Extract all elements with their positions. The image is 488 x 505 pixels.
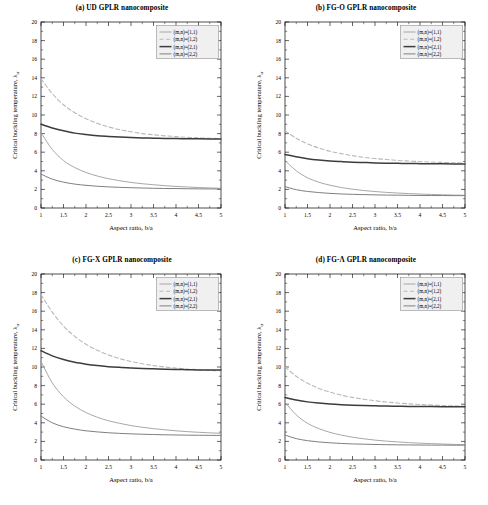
y-tick-label: 16 <box>31 56 37 62</box>
legend-label: (m,n)=(1,2) <box>418 288 442 295</box>
x-tick-label: 5 <box>464 212 467 218</box>
x-tick-label: 3 <box>130 212 133 218</box>
x-tick-label: 1 <box>40 212 43 218</box>
y-tick-label: 12 <box>275 93 281 99</box>
panel-c: (c) FG-X GPLR nanocomposite 11.522.533.5… <box>0 252 244 505</box>
x-tick-label: 4.5 <box>195 464 202 470</box>
x-tick-label: 1 <box>40 464 43 470</box>
y-tick-label: 6 <box>278 401 281 407</box>
x-tick-label: 4 <box>175 464 178 470</box>
x-tick-label: 1.5 <box>304 464 311 470</box>
legend-label: (m,n)=(2,2) <box>418 51 442 58</box>
y-tick-label: 16 <box>31 308 37 314</box>
x-tick-label: 4 <box>419 212 422 218</box>
y-tick-label: 14 <box>31 327 37 333</box>
y-tick-label: 12 <box>31 93 37 99</box>
y-axis-label: Critical buckling temperature, λcr <box>11 323 20 411</box>
chart-b: 11.522.533.544.5502468101214161820Aspect… <box>244 0 488 252</box>
x-tick-label: 1.5 <box>304 212 311 218</box>
y-tick-label: 10 <box>31 364 37 370</box>
svg-text:Critical buckling temperature,: Critical buckling temperature, λcr <box>255 71 264 159</box>
y-tick-label: 20 <box>31 19 37 25</box>
x-axis-label: Aspect ratio, b/a <box>353 476 396 483</box>
legend-label: (m,n)=(1,1) <box>174 29 198 36</box>
legend-label: (m,n)=(2,1) <box>418 44 442 51</box>
y-axis-label: Critical buckling temperature, λcr <box>255 323 264 411</box>
y-tick-label: 2 <box>278 438 281 444</box>
series-line <box>41 361 221 433</box>
y-tick-label: 2 <box>34 438 37 444</box>
y-axis-label: Critical buckling temperature, λcr <box>11 71 20 159</box>
x-axis-label: Aspect ratio, b/a <box>353 224 396 231</box>
y-tick-label: 10 <box>275 112 281 118</box>
x-tick-label: 3.5 <box>394 212 401 218</box>
y-tick-label: 0 <box>34 205 37 211</box>
legend-label: (m,n)=(2,2) <box>418 303 442 310</box>
y-tick-label: 14 <box>275 327 281 333</box>
y-tick-label: 18 <box>31 290 37 296</box>
y-tick-label: 8 <box>34 383 37 389</box>
y-tick-label: 4 <box>278 420 281 426</box>
legend-label: (m,n)=(1,2) <box>174 288 198 295</box>
legend-label: (m,n)=(2,2) <box>174 51 198 58</box>
figure-grid: (a) UD GPLR nanocomposite 11.522.533.544… <box>0 0 488 505</box>
x-tick-label: 2 <box>85 212 88 218</box>
x-tick-label: 4.5 <box>439 212 446 218</box>
x-tick-label: 3 <box>374 464 377 470</box>
legend-label: (m,n)=(2,1) <box>174 44 198 51</box>
y-tick-label: 10 <box>31 112 37 118</box>
panel-b: (b) FG-O GPLR nanocomposite 11.522.533.5… <box>244 0 488 252</box>
x-tick-label: 1 <box>284 212 287 218</box>
y-tick-label: 4 <box>34 168 37 174</box>
series-line <box>41 79 221 139</box>
panel-d: (d) FG-Λ GPLR nanocomposite 11.522.533.5… <box>244 252 488 505</box>
y-tick-label: 16 <box>275 56 281 62</box>
y-tick-label: 18 <box>275 38 281 44</box>
y-tick-label: 20 <box>275 19 281 25</box>
x-tick-label: 2 <box>85 464 88 470</box>
y-tick-label: 18 <box>31 38 37 44</box>
x-tick-label: 3 <box>374 212 377 218</box>
y-tick-label: 0 <box>278 205 281 211</box>
chart-d: 11.522.533.544.5502468101214161820Aspect… <box>244 252 488 505</box>
y-tick-label: 20 <box>275 271 281 277</box>
x-tick-label: 1.5 <box>60 464 67 470</box>
legend-label: (m,n)=(2,1) <box>418 296 442 303</box>
y-tick-label: 10 <box>275 364 281 370</box>
y-tick-label: 2 <box>278 186 281 192</box>
legend-label: (m,n)=(1,1) <box>418 29 442 36</box>
x-tick-label: 4.5 <box>439 464 446 470</box>
x-tick-label: 5 <box>220 212 223 218</box>
chart-c: 11.522.533.544.5502468101214161820Aspect… <box>0 252 244 505</box>
x-axis-label: Aspect ratio, b/a <box>109 476 152 483</box>
y-tick-label: 6 <box>34 401 37 407</box>
x-tick-label: 3 <box>130 464 133 470</box>
y-tick-label: 14 <box>275 75 281 81</box>
legend-label: (m,n)=(1,2) <box>174 36 198 43</box>
y-tick-label: 18 <box>275 290 281 296</box>
y-axis-label: Critical buckling temperature, λcr <box>255 71 264 159</box>
y-tick-label: 6 <box>34 149 37 155</box>
x-tick-label: 1.5 <box>60 212 67 218</box>
y-tick-label: 2 <box>34 186 37 192</box>
y-tick-label: 8 <box>34 131 37 137</box>
x-tick-label: 3.5 <box>150 464 157 470</box>
y-tick-label: 4 <box>34 420 37 426</box>
y-tick-label: 12 <box>275 345 281 351</box>
series-line <box>285 161 465 196</box>
x-tick-label: 2.5 <box>105 464 112 470</box>
series-line <box>285 402 465 444</box>
svg-text:Critical buckling temperature,: Critical buckling temperature, λcr <box>11 71 20 159</box>
legend-label: (m,n)=(2,2) <box>174 303 198 310</box>
x-tick-label: 3.5 <box>394 464 401 470</box>
x-tick-label: 2.5 <box>349 212 356 218</box>
legend-label: (m,n)=(1,1) <box>418 281 442 288</box>
x-tick-label: 2.5 <box>105 212 112 218</box>
series-line <box>285 131 465 163</box>
x-tick-label: 2 <box>329 464 332 470</box>
chart-a: 11.522.533.544.5502468101214161820Aspect… <box>0 0 244 252</box>
panel-a: (a) UD GPLR nanocomposite 11.522.533.544… <box>0 0 244 252</box>
legend-label: (m,n)=(1,1) <box>174 281 198 288</box>
y-tick-label: 8 <box>278 383 281 389</box>
x-tick-label: 2 <box>329 212 332 218</box>
